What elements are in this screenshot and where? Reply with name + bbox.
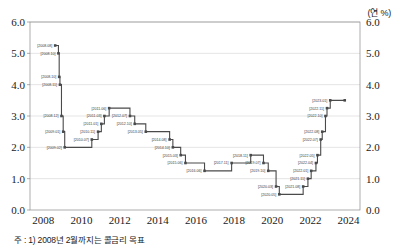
data-point-label: [2014.10] (155, 146, 170, 150)
data-point-label: [2008.11] (42, 83, 57, 87)
data-point-marker (310, 170, 313, 173)
data-point-marker (59, 83, 62, 86)
data-point-marker (168, 138, 171, 141)
data-point-marker (100, 123, 103, 126)
data-point-label: [2015.06] (167, 161, 182, 165)
data-point-label: [2018.11] (233, 154, 248, 158)
data-point-label: [2022.08] (304, 130, 319, 134)
data-point-marker (315, 162, 318, 165)
x-axis-tick-label: 2010 (71, 214, 94, 226)
data-point-marker (326, 107, 329, 110)
data-point-label: [2022.10] (307, 114, 322, 118)
y-axis-tick-label-right: 0.0 (366, 204, 380, 216)
x-axis-tick-label: 2022 (299, 214, 321, 226)
data-point-marker (319, 138, 322, 141)
data-point-label: [2022.04] (298, 161, 313, 165)
data-point-label: [2008.10] (40, 52, 55, 56)
data-point-label: [2013.05] (128, 130, 143, 134)
data-point-label: [2010.11] (80, 130, 95, 134)
data-point-marker (316, 154, 319, 157)
y-axis-tick-label: 3.0 (11, 110, 25, 122)
data-point-marker (302, 185, 305, 188)
data-point-marker (321, 130, 324, 133)
x-axis-tick-label: 2014 (147, 214, 170, 226)
data-point-label: [2020.03] (258, 185, 273, 189)
data-point-label: [2019.07] (245, 161, 260, 165)
interest-rate-chart: (연 %) 0.00.01.01.02.02.03.03.04.04.05.05… (0, 0, 395, 248)
data-point-label: [2012.07] (112, 114, 127, 118)
y-axis-tick-label-right: 4.0 (366, 79, 380, 91)
y-axis-tick-label-right: 5.0 (366, 47, 380, 59)
data-point-marker (324, 115, 327, 118)
data-point-marker (184, 162, 187, 165)
data-point-marker (275, 185, 278, 188)
x-axis-tick-label: 2020 (261, 214, 284, 226)
data-point-label: [2008.12] (43, 114, 58, 118)
y-axis-tick-label: 4.0 (11, 79, 25, 91)
y-axis-tick-label-right: 2.0 (366, 141, 380, 153)
data-point-marker (129, 115, 132, 118)
data-point-marker (249, 154, 252, 157)
data-point-marker (307, 177, 310, 180)
x-axis-tick-label: 2018 (223, 214, 246, 226)
data-point-marker (230, 162, 233, 165)
data-point-label: [2009.02] (47, 146, 62, 150)
x-axis-tick-label: 2016 (185, 214, 208, 226)
data-point-label: [2012.10] (117, 122, 132, 126)
data-point-label: [2021.11] (290, 177, 305, 181)
y-axis-tick-label-right: 1.0 (366, 173, 380, 185)
data-point-marker (60, 115, 63, 118)
data-point-label: [2011.06] (91, 107, 106, 111)
data-point-label: [2008.10] (41, 75, 56, 79)
y-axis-tick-label-right: 3.0 (366, 110, 380, 122)
x-axis-tick-label: 2008 (32, 214, 55, 226)
data-point-marker (91, 138, 94, 141)
data-point-marker (144, 130, 147, 133)
data-point-marker (108, 107, 111, 110)
data-point-label: [2011.03] (87, 114, 102, 118)
data-point-label: [2015.03] (163, 154, 178, 158)
data-point-marker (54, 44, 57, 47)
data-point-marker (267, 170, 270, 173)
data-point-label: [2010.07] (74, 138, 89, 142)
y-axis-tick-label: 0.0 (11, 204, 25, 216)
data-point-label: [2022.05] (299, 154, 314, 158)
data-point-marker (343, 99, 346, 102)
data-point-label: [2014.08] (152, 138, 167, 142)
chart-plot-area: 0.00.01.01.02.02.03.03.04.04.05.05.06.06… (0, 0, 395, 248)
y-axis-tick-label: 6.0 (11, 16, 25, 28)
data-point-marker (62, 130, 65, 133)
data-point-marker (63, 146, 66, 149)
data-point-label: [2021.08] (285, 185, 300, 189)
y-axis-tick-label: 1.0 (11, 173, 25, 185)
data-point-label: [2020.05] (261, 193, 276, 197)
data-point-label: [2022.01] (293, 169, 308, 173)
x-axis-tick-label: 2024 (338, 214, 361, 226)
data-point-marker (262, 162, 265, 165)
data-point-label: [2019.10] (250, 169, 265, 173)
y-axis-tick-label-right: 6.0 (366, 16, 380, 28)
data-point-marker (57, 52, 60, 55)
data-point-marker (103, 115, 106, 118)
data-point-marker (133, 123, 136, 126)
y-axis-tick-label: 5.0 (11, 47, 25, 59)
y-axis-tick-label: 2.0 (11, 141, 25, 153)
data-point-marker (97, 130, 100, 133)
data-point-marker (179, 154, 182, 157)
data-point-label: [2011.01] (84, 122, 99, 126)
data-point-label: [2008.08] (37, 44, 52, 48)
data-point-label: [2009.01] (45, 130, 60, 134)
data-point-marker (278, 193, 281, 196)
chart-footnote: 주 : 1) 2008년 2월까지는 콜금리 목표 (14, 233, 145, 245)
x-axis-tick-label: 2012 (109, 214, 131, 226)
data-point-label: [2023.01] (312, 99, 327, 103)
data-point-marker (58, 76, 61, 79)
data-point-marker (172, 146, 175, 149)
data-point-label: [2022.07] (303, 138, 318, 142)
data-point-label: [2016.06] (187, 169, 202, 173)
data-point-label: [2022.11] (309, 107, 324, 111)
data-point-marker (203, 170, 206, 173)
data-point-marker (329, 99, 332, 102)
data-point-label: [2017.11] (214, 161, 229, 165)
